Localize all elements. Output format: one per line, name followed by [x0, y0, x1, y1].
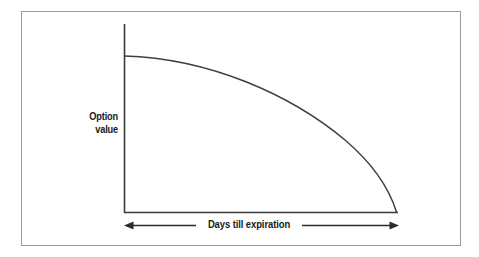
figure-canvas: Option value Days till expiration: [0, 0, 479, 257]
option-value-decay-curve: [125, 56, 397, 212]
x-axis-label: Days till expiration: [201, 218, 296, 230]
arrow-head-right-icon: [390, 222, 400, 230]
y-axis-label: Option value: [49, 110, 118, 135]
y-axis-label-line-2: value: [49, 123, 118, 136]
y-axis-label-line-1: Option: [49, 110, 118, 123]
arrow-head-left-icon: [124, 222, 134, 230]
